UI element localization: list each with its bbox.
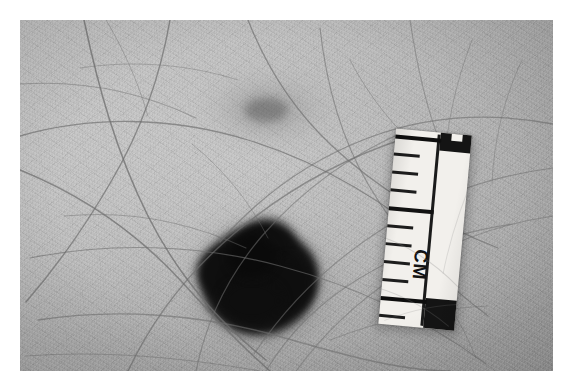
screenshot-root: CM: [0, 0, 565, 391]
photo-vignette: [20, 20, 553, 371]
clinical-photograph: CM: [20, 20, 553, 371]
